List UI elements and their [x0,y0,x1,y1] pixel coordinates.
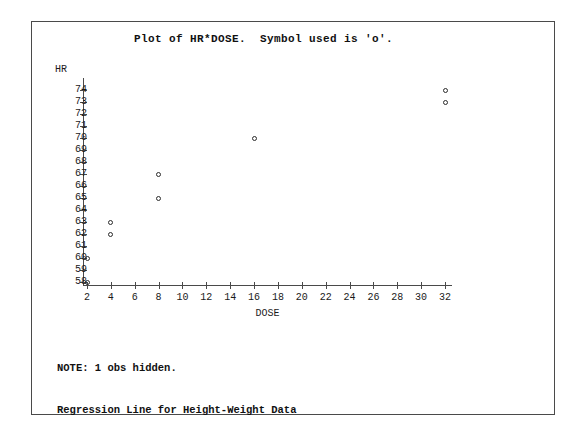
plot-title: Plot of HR*DOSE. Symbol used is 'o'. [134,33,393,45]
footnote-caption: Regression Line for Height-Weight Data [57,403,296,417]
footnotes-block: NOTE: 1 obs hidden. Regression Line for … [57,333,296,437]
footnote-note: NOTE: 1 obs hidden. [57,361,296,375]
